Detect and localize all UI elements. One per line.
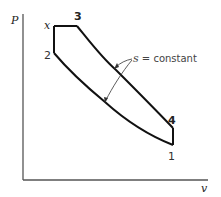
expansion-curve-3-4 — [77, 26, 173, 128]
arrowhead-upper-icon — [114, 63, 119, 69]
point-x-label: x — [44, 19, 51, 32]
point-4-label: 4 — [168, 114, 176, 127]
isentrope-annotation: s = constant — [104, 52, 197, 103]
point-1-label: 1 — [168, 150, 175, 163]
p-axis-label: P — [10, 14, 19, 27]
pointer-lower — [106, 60, 132, 100]
point-3-label: 3 — [74, 10, 82, 23]
s-constant-label: s = constant — [133, 52, 197, 65]
v-axis-label: v — [201, 182, 208, 195]
point-2-label: 2 — [44, 49, 51, 62]
point-labels: x 3 2 4 1 — [44, 10, 176, 163]
s-constant-text: = constant — [139, 53, 197, 64]
pv-diagram: P v x 3 2 4 1 s = constant — [0, 0, 221, 197]
